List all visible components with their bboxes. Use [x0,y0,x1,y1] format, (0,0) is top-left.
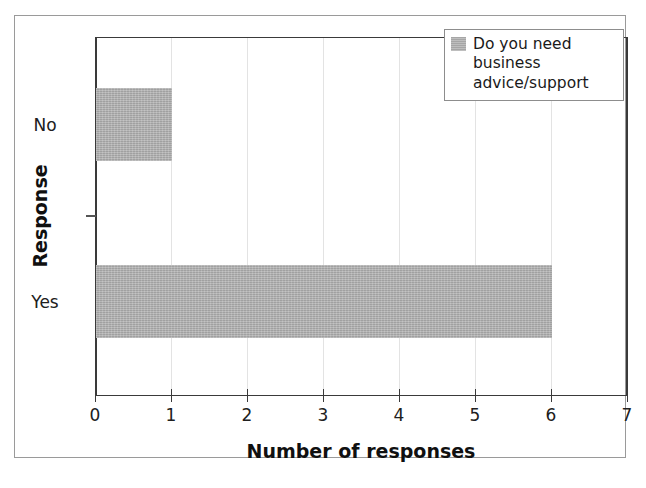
x-tick-label-4: 4 [379,405,419,425]
x-tick-label-3: 3 [303,405,343,425]
x-axis-tick-7 [627,389,628,402]
gridline-x-4 [399,38,400,395]
x-axis-tick-3 [323,389,324,402]
x-axis-tick-0 [95,389,96,402]
x-axis-tick-2 [247,389,248,402]
x-tick-label-2: 2 [227,405,267,425]
x-axis-tick-6 [551,389,552,402]
x-axis-line [95,395,628,396]
x-tick-label-6: 6 [531,405,571,425]
x-tick-label-1: 1 [151,405,191,425]
gridline-x-3 [323,38,324,395]
x-tick-label-0: 0 [75,405,115,425]
y-axis-title: Response [29,116,51,316]
legend-entry-label: Do you need business advice/support [473,35,617,93]
chart-page: No Yes 0 1 2 3 4 5 6 7 Number of respons… [0,0,646,488]
x-axis-tick-4 [399,389,400,402]
x-tick-label-5: 5 [455,405,495,425]
bar-no[interactable] [96,88,172,161]
x-axis-title: Number of responses [95,440,627,462]
gridline-x-2 [247,38,248,395]
bar-chart: No Yes 0 1 2 3 4 5 6 7 Number of respons… [0,0,646,488]
x-axis-tick-5 [475,389,476,402]
x-tick-label-7: 7 [607,405,646,425]
legend-color-swatch [451,37,466,51]
chart-legend[interactable]: Do you need business advice/support [444,29,624,101]
x-axis-tick-1 [171,389,172,402]
bar-yes[interactable] [96,265,552,338]
y-axis-tick [86,215,96,217]
plot-right-border [626,37,628,396]
